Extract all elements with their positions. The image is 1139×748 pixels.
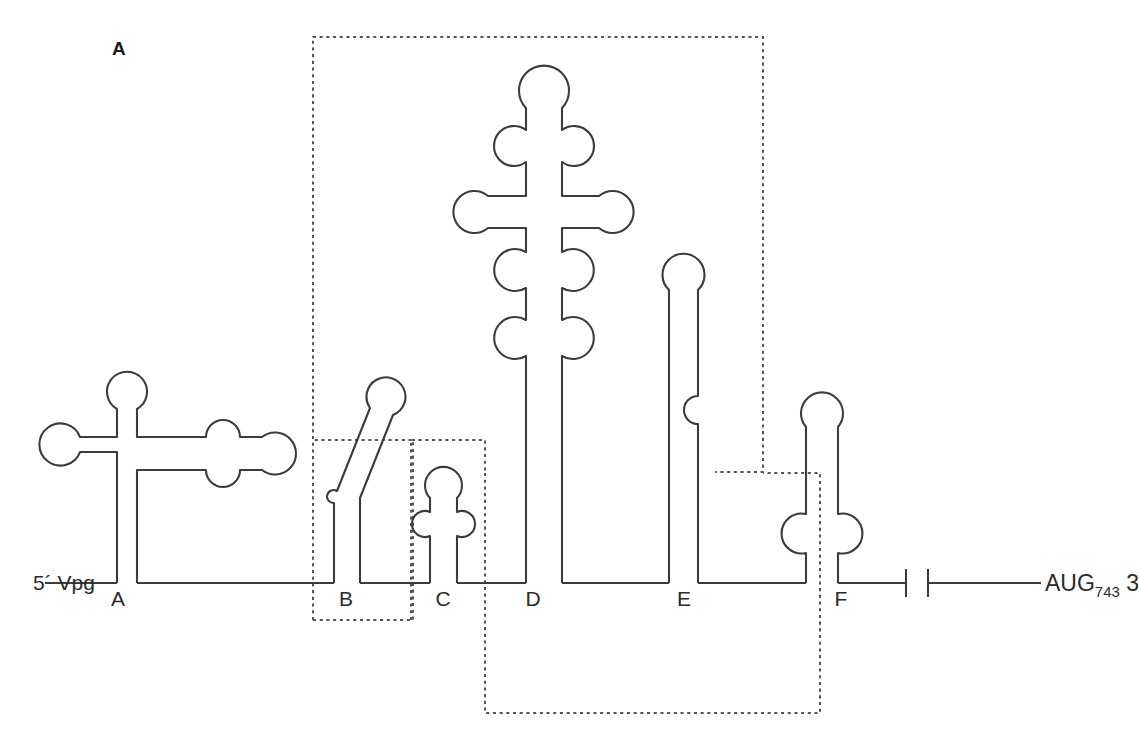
dotted-region-domain-b [313, 440, 413, 620]
domain-label-e: E [677, 587, 691, 610]
domain-label-a: A [111, 587, 125, 610]
domain-label-c: C [435, 587, 450, 610]
three-prime-label: 3 [1120, 570, 1139, 596]
start-codon-label: AUG743 3 [1045, 570, 1139, 600]
domain-f-structure [782, 392, 863, 583]
five-prime-label: 5´ Vpg [33, 571, 95, 594]
domain-label-b: B [339, 587, 353, 610]
start-codon-text: AUG [1045, 570, 1095, 596]
domain-a-structure [39, 372, 296, 583]
domain-c-structure [412, 467, 475, 583]
dotted-region-orii [313, 37, 763, 620]
panel-label-a: A [112, 38, 126, 59]
rna-secondary-structure-diagram: A 5´ Vpg A B C D E F AUG743 3 [0, 0, 1139, 748]
domain-e-structure [663, 254, 705, 583]
start-codon-position: 743 [1095, 583, 1120, 600]
domain-label-f: F [835, 587, 848, 610]
figure-root: A 5´ Vpg A B C D E F AUG743 3 [0, 0, 1139, 748]
domain-b-structure [327, 377, 405, 583]
domain-d-structure [453, 66, 633, 583]
domain-label-d: D [525, 587, 540, 610]
